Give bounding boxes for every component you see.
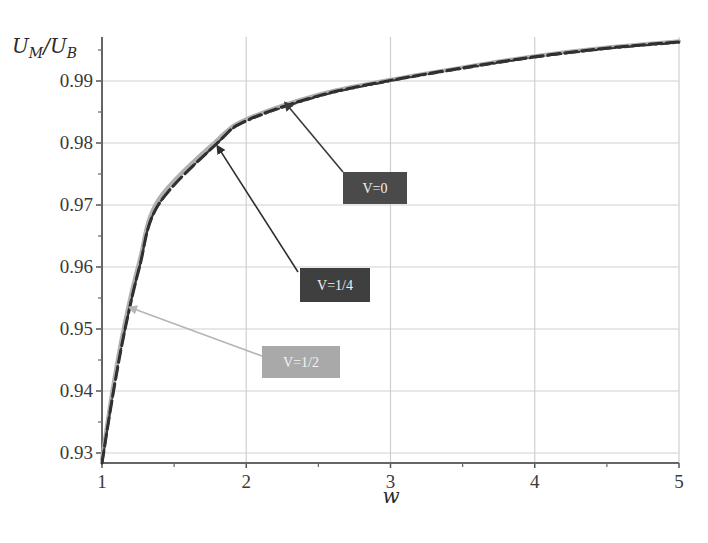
y-tick-label: 0.97 [60,194,93,215]
x-tick-label: 2 [242,471,252,492]
grid [102,37,679,463]
y-tick-label: 0.96 [60,256,93,277]
y-tick-label: 0.93 [60,442,93,463]
annotation-arrow [129,307,262,356]
annotation-label: V=1/2 [283,355,319,370]
annotations: V=0V=1/4V=1/2 [129,103,407,378]
axes [96,37,679,468]
annotation-arrow [217,146,298,272]
x-tick-label: 1 [97,471,107,492]
annotation-label: V=0 [362,181,387,196]
annotation-label: V=1/4 [317,278,353,293]
chart: V=0V=1/4V=1/2 0.930.940.950.960.970.980.… [0,0,708,543]
tick-labels: 0.930.940.950.960.970.980.9912345 [60,70,684,492]
y-tick-label: 0.99 [60,70,93,91]
x-tick-label: 5 [674,471,684,492]
x-axis-label: w [382,484,399,508]
y-axis-label: UM/UB [12,34,77,61]
x-tick-label: 4 [530,471,540,492]
annotation-arrow [285,103,343,172]
y-tick-label: 0.94 [60,380,94,401]
y-tick-label: 0.95 [60,318,93,339]
y-tick-label: 0.98 [60,132,93,153]
